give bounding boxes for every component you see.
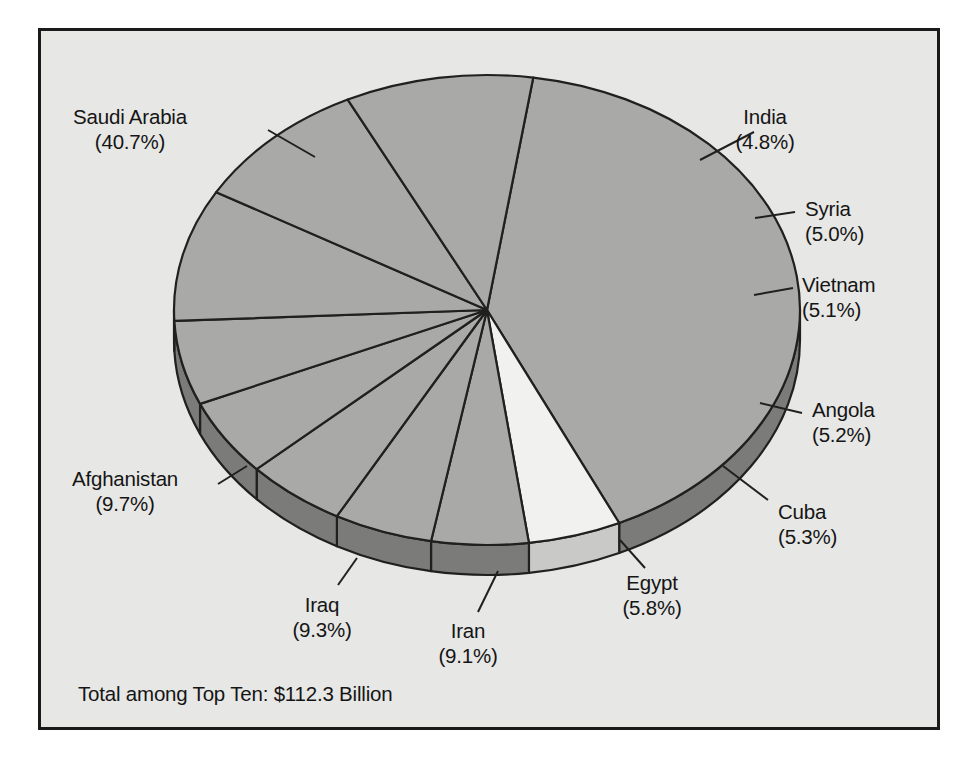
pie-chart-figure: Saudi Arabia(40.7%)India(4.8%)Syria(5.0%…: [0, 0, 963, 765]
slice-label-percent-syria: (5.0%): [805, 221, 864, 246]
slice-label-name-saudi-arabia: Saudi Arabia: [73, 104, 187, 129]
slice-label-iran: Iran(9.1%): [438, 618, 497, 668]
slice-label-vietnam: Vietnam(5.1%): [802, 272, 875, 322]
slice-label-india: India(4.8%): [735, 104, 794, 154]
slice-label-name-iran: Iran: [438, 618, 497, 643]
slice-label-percent-iran: (9.1%): [438, 643, 497, 668]
slice-label-name-afghanistan: Afghanistan: [72, 466, 178, 491]
slice-label-egypt: Egypt(5.8%): [622, 570, 681, 620]
slice-label-saudi-arabia: Saudi Arabia(40.7%): [73, 104, 187, 154]
slice-label-percent-iraq: (9.3%): [292, 617, 351, 642]
slice-label-syria: Syria(5.0%): [805, 196, 864, 246]
slice-label-angola: Angola(5.2%): [812, 397, 875, 447]
slice-label-name-iraq: Iraq: [292, 592, 351, 617]
slice-label-cuba: Cuba(5.3%): [778, 499, 837, 549]
slice-label-name-syria: Syria: [805, 196, 864, 221]
slice-label-name-angola: Angola: [812, 397, 875, 422]
slice-label-afghanistan: Afghanistan(9.7%): [72, 466, 178, 516]
slice-label-percent-saudi-arabia: (40.7%): [73, 129, 187, 154]
slice-label-percent-india: (4.8%): [735, 129, 794, 154]
slice-label-iraq: Iraq(9.3%): [292, 592, 351, 642]
slice-label-percent-vietnam: (5.1%): [802, 297, 875, 322]
slice-label-name-egypt: Egypt: [622, 570, 681, 595]
slice-label-percent-angola: (5.2%): [812, 422, 875, 447]
slice-label-percent-egypt: (5.8%): [622, 595, 681, 620]
slice-label-percent-afghanistan: (9.7%): [72, 491, 178, 516]
slice-label-name-cuba: Cuba: [778, 499, 837, 524]
total-note: Total among Top Ten: $112.3 Billion: [78, 682, 392, 706]
slice-label-percent-cuba: (5.3%): [778, 524, 837, 549]
slice-label-name-india: India: [735, 104, 794, 129]
slice-label-name-vietnam: Vietnam: [802, 272, 875, 297]
